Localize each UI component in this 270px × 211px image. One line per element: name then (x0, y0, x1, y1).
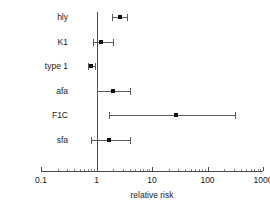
x-axis-minor-tick (91, 169, 92, 171)
x-axis-tick-label-0.1: 0.1 (35, 175, 47, 185)
x-axis-tick-1 (97, 167, 98, 171)
x-axis-minor-tick (74, 169, 75, 171)
error-cap-afa-high (130, 88, 131, 95)
x-axis-minor-tick (84, 169, 85, 171)
x-axis-minor-tick (94, 169, 95, 171)
x-axis-minor-tick (80, 169, 81, 171)
data-point-afa (111, 89, 115, 93)
error-cap-type-1-high (95, 63, 96, 70)
x-axis-tick-0.1 (41, 167, 42, 171)
x-axis-minor-tick (254, 169, 255, 171)
x-axis-tick-label-100: 100 (200, 175, 214, 185)
x-axis-tick-10 (152, 167, 153, 171)
x-axis-minor-tick (88, 169, 89, 171)
error-cap-k1-high (113, 39, 114, 46)
error-cap-f1c-low (109, 112, 110, 119)
x-axis-tick-1000 (263, 167, 264, 171)
x-axis-title: relative risk (131, 190, 174, 200)
data-point-k1 (99, 40, 103, 44)
x-axis-minor-tick (58, 169, 59, 171)
error-cap-k1-low (93, 39, 94, 46)
x-axis-minor-tick (143, 169, 144, 171)
x-axis-minor-tick (251, 169, 252, 171)
data-point-sfa (107, 138, 111, 142)
x-axis-minor-tick (149, 169, 150, 171)
x-axis-tick-label-1: 1 (94, 175, 99, 185)
x-axis-minor-tick (185, 169, 186, 171)
x-axis-tick-100 (208, 167, 209, 171)
x-axis-line (41, 171, 263, 172)
x-axis-minor-tick (202, 169, 203, 171)
forest-plot-figure: hlyK1type 1afaF1Csfa 0.11101001000 relat… (0, 0, 270, 211)
x-axis-minor-tick (195, 169, 196, 171)
x-axis-minor-tick (135, 169, 136, 171)
x-axis-tick-label-1000: 1000 (254, 175, 270, 185)
error-cap-sfa-high (130, 137, 131, 144)
error-cap-f1c-high (235, 112, 236, 119)
data-point-hly (118, 15, 122, 19)
x-axis-minor-tick (234, 169, 235, 171)
x-axis-minor-tick (224, 169, 225, 171)
x-axis-minor-tick (178, 169, 179, 171)
x-axis-minor-tick (205, 169, 206, 171)
x-axis-minor-tick (169, 169, 170, 171)
error-cap-afa-low (97, 88, 98, 95)
x-axis-minor-tick (191, 169, 192, 171)
x-axis-minor-tick (241, 169, 242, 171)
data-point-type-1 (89, 64, 93, 68)
x-axis-minor-tick (123, 169, 124, 171)
x-axis-minor-tick (147, 169, 148, 171)
error-cap-hly-low (112, 14, 113, 21)
x-axis-minor-tick (130, 169, 131, 171)
x-axis-minor-tick (260, 169, 261, 171)
x-axis-minor-tick (258, 169, 259, 171)
x-axis-minor-tick (140, 169, 141, 171)
error-bar-f1c (109, 115, 234, 116)
x-axis-minor-tick (246, 169, 247, 171)
error-cap-hly-high (127, 14, 128, 21)
error-cap-sfa-low (91, 137, 92, 144)
x-axis-minor-tick (199, 169, 200, 171)
x-axis-minor-tick (67, 169, 68, 171)
data-point-f1c (174, 113, 178, 117)
x-axis-tick-label-10: 10 (147, 175, 156, 185)
x-axis-minor-tick (113, 169, 114, 171)
